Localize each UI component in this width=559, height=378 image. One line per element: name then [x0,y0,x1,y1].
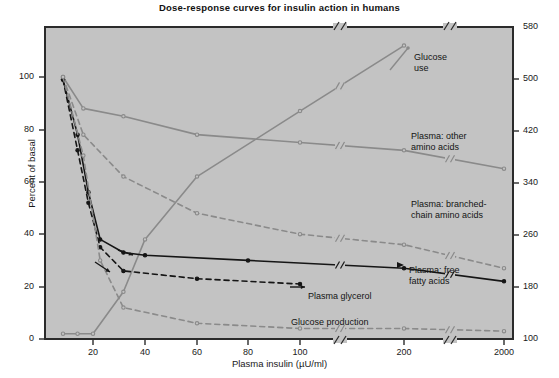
y-tick-right-1: 500 [523,73,555,83]
series-label-glucose-use: Glucose use [414,52,447,73]
y-tick-left-4: 20 [8,281,34,291]
y-tick-left-2: 60 [8,176,34,186]
x-tick-0: 20 [73,347,113,357]
series-label-plasma-other-amino-acids: Plasma: other amino acids [411,131,467,152]
x-tick-1: 40 [125,347,165,357]
series-line-1 [63,77,504,169]
y-tick-right-5: 180 [523,281,555,291]
y-tick-left-0: 100 [8,71,34,81]
y-tick-right-4: 260 [523,229,555,239]
series-label-plasma-branched-chain-amino-acids: Plasma: branched- chain amino acids [411,199,487,220]
series-label-plasma-free-fatty-acids: Plasma: free fatty acids [409,265,460,286]
series-label-plasma-glycerol: Plasma glycerol [308,291,372,302]
y-tick-right-2: 420 [523,125,555,135]
x-tick-5: 200 [384,347,424,357]
y-tick-right-3: 340 [523,177,555,187]
x-tick-4: 100 [280,347,320,357]
series-line-3 [63,80,504,282]
series-label-glucose-production: Glucose production [291,317,369,328]
chart-figure: Dose-response curves for insulin action … [0,0,559,378]
y-tick-right-6: 100 [523,333,555,343]
x-tick-3: 80 [228,347,268,357]
annotation-leaders [95,46,410,289]
x-tick-2: 60 [177,347,217,357]
y-tick-left-1: 80 [8,124,34,134]
series-line-2 [63,77,504,268]
x-tick-6: 2000 [484,347,524,357]
chart-canvas [0,0,559,378]
x-axis-label: Plasma insulin (µU/ml) [0,358,559,369]
series-layer [61,44,505,336]
y-tick-left-5: 0 [8,333,34,343]
y-tick-left-3: 40 [8,228,34,238]
y-tick-right-0: 580 [523,21,555,31]
